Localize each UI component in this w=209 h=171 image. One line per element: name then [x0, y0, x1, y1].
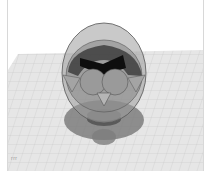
scale-label: rrr: [11, 155, 18, 161]
model-shadow-tail: [92, 129, 116, 145]
3d-viewport[interactable]: rrr: [0, 0, 209, 171]
model-eye-right[interactable]: [102, 69, 128, 95]
scene-canvas[interactable]: [0, 0, 209, 171]
viewport-right-border: [203, 0, 204, 171]
viewport-left-border: [7, 0, 8, 171]
